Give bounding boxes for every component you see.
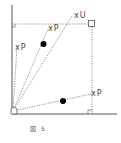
- ray-to-p-left: [13, 48, 17, 111]
- dot-upper: [41, 41, 47, 47]
- caption-number: 5: [41, 125, 45, 132]
- point-p-right-label: xP: [91, 89, 102, 98]
- corner-square-icon: [89, 21, 95, 27]
- figure-caption: 図5: [30, 125, 45, 133]
- point-p-upper-label: xP: [48, 24, 59, 33]
- point-u-label: xU: [74, 11, 86, 20]
- diagram-figure: xU xP xP xP 図5: [0, 0, 121, 143]
- ray-to-u: [13, 16, 72, 111]
- point-p-left-label: xP: [15, 43, 26, 52]
- ray-to-p-right: [13, 94, 91, 111]
- dot-lower: [60, 98, 66, 104]
- origin-marker-icon: [11, 107, 17, 114]
- right-angle-mark-bottom-right: [88, 110, 92, 114]
- caption-label: 図: [30, 125, 36, 133]
